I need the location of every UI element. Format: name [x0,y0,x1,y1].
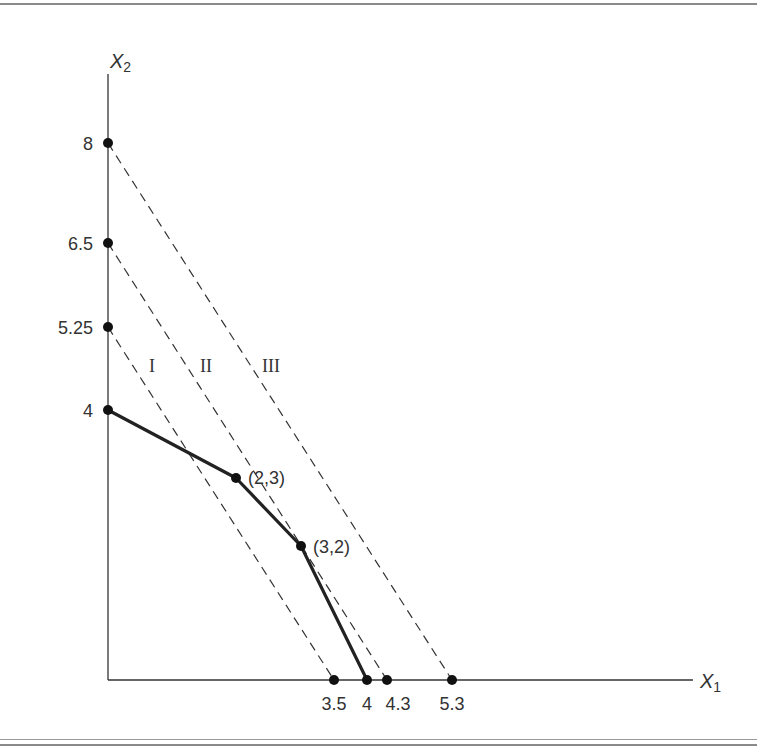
frontier-point-3-2 [296,541,306,551]
y-tick-label: 5.25 [58,318,93,338]
y-axis-label: X2 [109,50,131,75]
y-point-6-5 [103,238,113,248]
x-tick-label: 4 [362,694,372,714]
y-tick-label: 6.5 [68,234,93,254]
x-tick-label: 5.3 [439,694,464,714]
isoline-label-i: I [149,356,155,376]
frame-bottom-rule-thin [0,739,757,740]
y-point-4 [103,405,113,415]
isoline-iii [108,143,452,680]
x-point-3-5 [329,675,339,685]
frame-bottom-rule-thick [0,744,757,746]
isoline-i [108,327,334,680]
x-point-5-3 [447,675,457,685]
point-label-3-2: (3,2) [313,537,350,557]
y-tick-label: 8 [83,134,93,154]
diagram-canvas: X2 X1 8 6.5 5.25 4 3.5 4 4.3 5.3 I II II… [0,0,757,748]
isoline-label-iii: III [262,356,280,376]
isoline-ii [108,243,387,680]
y-point-5-25 [103,322,113,332]
y-tick-label: 4 [83,401,93,421]
x-point-4 [362,675,372,685]
frontier-point-2-3 [231,473,241,483]
y-point-8 [103,138,113,148]
isoline-label-ii: II [200,356,212,376]
point-label-2-3: (2,3) [248,468,285,488]
x-tick-label: 4.3 [385,694,410,714]
x-point-4-3 [382,675,392,685]
x-tick-label: 3.5 [321,694,346,714]
x-axis-label: X1 [699,670,721,695]
